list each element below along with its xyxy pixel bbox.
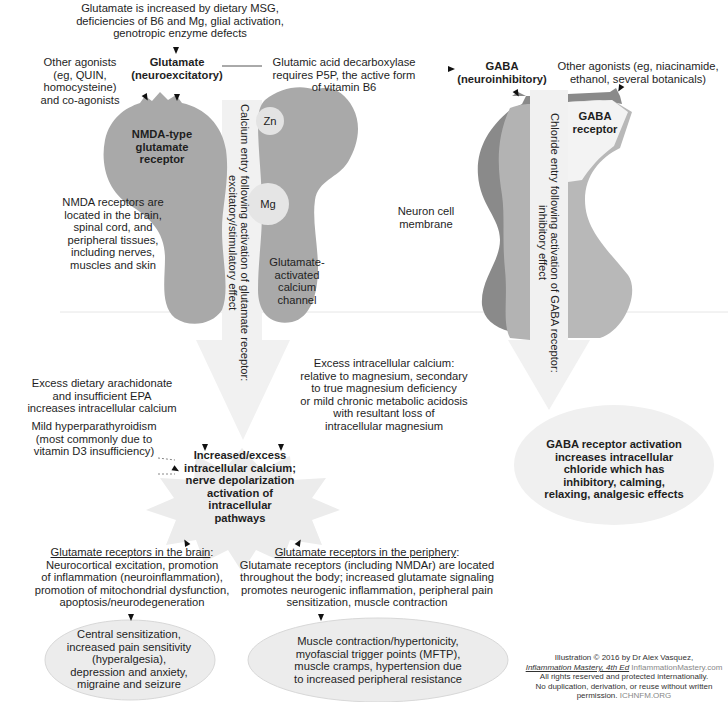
- text-line: chloride which has: [530, 463, 698, 476]
- text-line: inhibitory effect: [536, 110, 549, 376]
- text-line: GABA receptor activation: [530, 438, 698, 451]
- text-line: increases intracellular: [530, 451, 698, 464]
- text-line: Glutamate is increased by dietary MSG,: [60, 2, 300, 15]
- text-line: myofascial trigger points (MFTP),: [290, 648, 466, 661]
- text-line: (neuroexcitatory): [128, 69, 226, 82]
- nmda-location-note: NMDA receptors are located in the brain,…: [58, 196, 168, 272]
- text-line: to true magnesium deficiency: [300, 382, 468, 395]
- text-line: activated: [266, 269, 328, 282]
- org-link[interactable]: ICHNFM.ORG: [620, 691, 672, 700]
- text-line: GABA: [570, 110, 620, 123]
- text-line: increased pain sensitivity: [54, 641, 204, 654]
- other-agonists-left-note: Other agonists (eg, QUIN, homocysteine) …: [38, 56, 122, 106]
- text-line: Excess intracellular calcium:: [300, 357, 468, 370]
- text-line: membrane: [386, 218, 466, 231]
- copyright-credit: Illustration © 2016 by Dr Alex Vasquez, …: [520, 653, 728, 701]
- text-line: Other agonists: [38, 56, 122, 69]
- text-line: Muscle contraction/hypertonicity,: [290, 635, 466, 648]
- text-line: with resultant loss of: [300, 407, 468, 420]
- text-line: located in the brain,: [58, 209, 168, 222]
- text-line: including nerves,: [58, 246, 168, 259]
- text-line: apoptosis/neurodegeneration: [34, 596, 230, 609]
- text-line: deficiencies of B6 and Mg, glial activat…: [60, 15, 300, 28]
- brain-heading: Glutamate receptors in the brain: [51, 546, 211, 558]
- text-line: increases intracellular calcium: [22, 402, 182, 415]
- glutamate-causes-note: Glutamate is increased by dietary MSG, d…: [60, 2, 300, 40]
- text-line: Central sensitization,: [54, 628, 204, 641]
- other-agonists-right-note: Other agonists (eg, niacinamide, ethanol…: [548, 60, 728, 85]
- text-line: or mild chronic metabolic acidosis: [300, 395, 468, 408]
- brain-receptors-note: Glutamate receptors in the brain: Neuroc…: [34, 546, 230, 609]
- text-line: Neuron cell: [386, 205, 466, 218]
- arrowhead-icon: [174, 94, 180, 101]
- gaba-label: GABA (neuroinhibitory): [456, 60, 548, 85]
- text-line: relaxing, analgesic effects: [530, 488, 698, 501]
- magnesium-ion-label: Mg: [256, 198, 280, 211]
- text-line: glutamate: [124, 141, 200, 154]
- text-line: depression and anxiety,: [54, 666, 204, 679]
- text-line: intracellular calcium;: [182, 462, 298, 475]
- brain-outcome-label: Central sensitization, increased pain se…: [54, 628, 204, 691]
- arrowhead-icon: [128, 614, 134, 621]
- text-line: Mild hyperparathyroidism: [30, 420, 158, 433]
- text-line: permission.: [577, 691, 618, 700]
- text-line: Glutamic acid decarboxylase: [266, 56, 422, 69]
- text-line: and insufficient EPA: [22, 390, 182, 403]
- calcium-burst-label: Increased/excess intracellular calcium; …: [182, 449, 298, 525]
- text-line: vitamin D3 insufficiency): [30, 445, 158, 458]
- arrowhead-icon: [318, 614, 324, 621]
- text-line: No duplication, derivation, or reuse wit…: [520, 682, 728, 692]
- gad-note: Glutamic acid decarboxylase requires P5P…: [266, 56, 422, 94]
- text-line: intracellular pathways: [182, 499, 298, 524]
- text-line: (hyperalgesia),: [54, 653, 204, 666]
- text-line: (eg, QUIN,: [38, 69, 122, 82]
- book-title: Inflammation Mastery, 4th Ed: [526, 663, 629, 672]
- arrowhead-icon: [173, 47, 179, 54]
- text-line: throughout the body; increased glutamate…: [236, 571, 498, 584]
- text-line: activation of: [182, 487, 298, 500]
- site-link[interactable]: InflammationMastery.com: [631, 663, 722, 672]
- text-line: promotion of mitochondrial dysfunction,: [34, 584, 230, 597]
- text-line: sensitization, muscle contraction: [236, 596, 498, 609]
- text-line: Glutamate: [128, 56, 226, 69]
- membrane-label: Neuron cell membrane: [386, 205, 466, 230]
- arrowhead-icon: [448, 66, 455, 72]
- text-line: Illustration © 2016 by Dr Alex Vasquez,: [520, 653, 728, 663]
- text-line: nerve depolarization: [182, 474, 298, 487]
- text-line: of vitamin B6: [266, 81, 422, 94]
- chloride-entry-label: Chloride entry following activation of G…: [536, 110, 561, 376]
- text-line: excitatory/stimulatory effect: [226, 98, 239, 388]
- calcium-channel-label: Glutamate- activated calcium channel: [266, 256, 328, 306]
- text-line: calcium: [266, 281, 328, 294]
- text-line: relative to magnesium, secondary: [300, 370, 468, 383]
- text-line: migraine and seizure: [54, 678, 204, 691]
- text-line: Chloride entry following activation of G…: [549, 110, 562, 376]
- text-line: muscles and skin: [58, 259, 168, 272]
- text-line: to increased peripheral resistance: [290, 673, 466, 686]
- text-line: receptor: [570, 123, 620, 136]
- text-line: genotropic enzyme defects: [60, 27, 300, 40]
- zinc-ion-label: Zn: [258, 115, 282, 128]
- periphery-outcome-label: Muscle contraction/hypertonicity, myofas…: [290, 635, 466, 685]
- text-line: Increased/excess: [182, 449, 298, 462]
- text-line: requires P5P, the active form: [266, 69, 422, 82]
- nmda-receptor-label: NMDA-type glutamate receptor: [124, 128, 200, 166]
- text-line: All rights reserved and protected intern…: [520, 672, 728, 682]
- text-line: NMDA receptors are: [58, 196, 168, 209]
- text-line: and co-agonists: [38, 94, 122, 107]
- glutamate-label: Glutamate (neuroexcitatory): [128, 56, 226, 81]
- hyperparathyroidism-note: Mild hyperparathyroidism (most commonly …: [30, 420, 158, 458]
- text-line: NMDA-type: [124, 128, 200, 141]
- text-line: peripheral tissues,: [58, 234, 168, 247]
- text-line: promotes neurogenic inflammation, periph…: [236, 584, 498, 597]
- text-line: Neurocortical excitation, promotion: [34, 559, 230, 572]
- text-line: GABA: [456, 60, 548, 73]
- arachidonate-note: Excess dietary arachidonate and insuffic…: [22, 377, 182, 415]
- gaba-receptor-label: GABA receptor: [570, 110, 620, 135]
- text-line: (neuroinhibitory): [456, 73, 548, 86]
- text-line: Glutamate-: [266, 256, 328, 269]
- text-line: intracellular magnesium: [300, 420, 468, 433]
- text-line: receptor: [124, 153, 200, 166]
- text-line: homocysteine): [38, 81, 122, 94]
- text-line: of inflammation (neuroinflammation),: [34, 571, 230, 584]
